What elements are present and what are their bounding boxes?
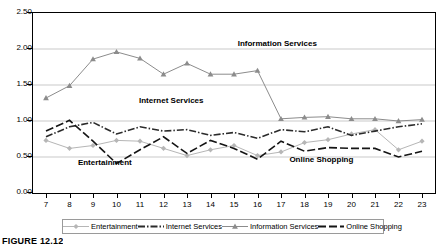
legend-item[interactable]: Online Shopping bbox=[318, 222, 401, 231]
x-axis-tick-label: 10 bbox=[108, 201, 126, 209]
series-information-services bbox=[43, 49, 425, 123]
series-annotation: Online Shopping bbox=[289, 155, 353, 164]
x-axis-tick-label: 20 bbox=[343, 201, 361, 209]
x-axis-tick-mark bbox=[281, 194, 282, 198]
x-axis-tick-label: 7 bbox=[37, 201, 55, 209]
data-point-marker bbox=[161, 146, 166, 151]
series-line bbox=[46, 122, 422, 138]
x-axis-tick-label: 13 bbox=[178, 201, 196, 209]
x-axis-tick-mark bbox=[234, 194, 235, 198]
x-axis-tick-mark bbox=[399, 194, 400, 198]
x-axis-tick-label: 22 bbox=[390, 201, 408, 209]
x-axis-tick-mark bbox=[375, 194, 376, 198]
x-axis-tick-mark bbox=[93, 194, 94, 198]
x-axis-tick-mark bbox=[70, 194, 71, 198]
data-point-marker bbox=[114, 138, 119, 143]
x-axis-tick-mark bbox=[352, 194, 353, 198]
data-point-marker bbox=[278, 149, 283, 154]
x-axis-tick-label: 15 bbox=[225, 201, 243, 209]
legend-swatch-icon bbox=[318, 222, 344, 231]
series-entertainment bbox=[43, 127, 424, 158]
x-axis-tick-label: 8 bbox=[61, 201, 79, 209]
data-point-marker bbox=[255, 68, 261, 73]
x-axis-tick-mark bbox=[164, 194, 165, 198]
data-point-marker bbox=[302, 140, 307, 145]
line-chart: 0.000.501.001.502.002.50 789101112131415… bbox=[0, 0, 448, 215]
x-axis-tick-mark bbox=[258, 194, 259, 198]
x-axis-tick-label: 19 bbox=[319, 201, 337, 209]
data-point-marker bbox=[419, 117, 425, 122]
series-internet-services bbox=[46, 122, 422, 138]
x-axis-tick-mark bbox=[187, 194, 188, 198]
data-point-marker bbox=[184, 61, 190, 66]
legend-item-label: Online Shopping bbox=[346, 223, 401, 231]
y-axis: 0.000.501.001.502.002.50 bbox=[0, 0, 32, 194]
data-point-marker bbox=[114, 49, 120, 54]
data-point-marker bbox=[67, 146, 72, 151]
x-axis-tick-mark bbox=[328, 194, 329, 198]
data-point-marker bbox=[161, 71, 167, 76]
x-axis-tick-mark bbox=[140, 194, 141, 198]
x-axis-tick-label: 21 bbox=[366, 201, 384, 209]
legend-swatch-icon bbox=[63, 222, 89, 231]
legend-swatch-icon bbox=[138, 222, 164, 231]
x-axis-tick-mark bbox=[422, 194, 423, 198]
data-point-marker bbox=[137, 139, 142, 144]
legend-item[interactable]: Internet Services bbox=[138, 222, 222, 231]
series-annotation: Information Services bbox=[238, 39, 317, 48]
legend-item-label: Entertainment bbox=[91, 223, 138, 231]
x-axis-tick-label: 16 bbox=[249, 201, 267, 209]
x-axis-tick-label: 17 bbox=[272, 201, 290, 209]
data-point-marker bbox=[43, 95, 49, 100]
figure-container: 0.000.501.001.502.002.50 789101112131415… bbox=[0, 0, 448, 248]
x-axis-tick-label: 12 bbox=[155, 201, 173, 209]
series-annotation: Internet Services bbox=[139, 96, 203, 105]
chart-legend: EntertainmentInternet ServicesInformatio… bbox=[62, 219, 384, 234]
series-annotation: Entertainment bbox=[78, 158, 132, 167]
x-axis: 7891011121314151617181920212223 bbox=[32, 194, 436, 216]
x-axis-tick-label: 23 bbox=[413, 201, 431, 209]
data-point-marker bbox=[419, 139, 424, 144]
series-line bbox=[46, 52, 422, 121]
data-point-marker bbox=[325, 137, 330, 142]
legend-item-label: Information Services bbox=[250, 223, 318, 231]
x-axis-tick-mark bbox=[117, 194, 118, 198]
x-axis-tick-label: 14 bbox=[202, 201, 220, 209]
legend-swatch-icon bbox=[222, 222, 248, 231]
data-point-marker bbox=[208, 147, 213, 152]
legend-item-label: Internet Services bbox=[166, 223, 222, 231]
x-axis-tick-label: 11 bbox=[131, 201, 149, 209]
legend-item[interactable]: Information Services bbox=[222, 222, 318, 231]
x-axis-tick-mark bbox=[211, 194, 212, 198]
x-axis-tick-mark bbox=[305, 194, 306, 198]
legend-item[interactable]: Entertainment bbox=[63, 222, 138, 231]
x-axis-tick-mark bbox=[46, 194, 47, 198]
data-point-marker bbox=[73, 224, 78, 229]
data-point-marker bbox=[43, 138, 48, 143]
x-axis-tick-label: 9 bbox=[84, 201, 102, 209]
figure-caption: FIGURE 12.12 bbox=[2, 236, 63, 247]
x-axis-tick-label: 18 bbox=[296, 201, 314, 209]
